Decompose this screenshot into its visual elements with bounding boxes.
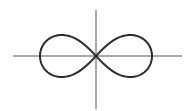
diagram-canvas [0,0,191,111]
lemniscate-diagram [0,0,191,111]
